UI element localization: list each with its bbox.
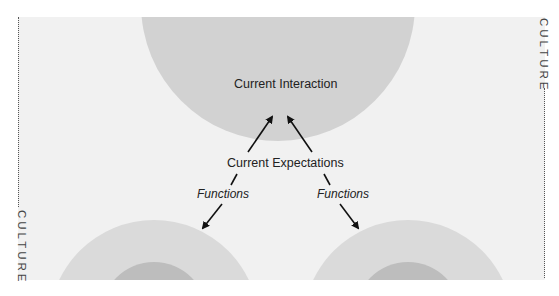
arrows-layer (0, 0, 559, 296)
arrow-functions-to-bottom-right (340, 204, 358, 228)
arrow-expectations-to-interaction-left (248, 117, 272, 152)
line-expectations-to-functions-left (231, 174, 237, 185)
line-expectations-to-functions-right (324, 174, 330, 185)
arrow-functions-to-bottom-left (203, 204, 222, 228)
arrow-expectations-to-interaction-right (288, 117, 312, 152)
